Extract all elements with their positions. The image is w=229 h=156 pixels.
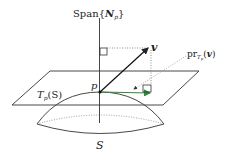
label-p: p xyxy=(91,80,98,91)
point-p xyxy=(98,90,101,93)
label-surface-s: S xyxy=(96,139,104,152)
projection-label-leader xyxy=(134,56,186,89)
label-span-np: Span{Np} xyxy=(73,8,124,21)
right-angle-marker-axis xyxy=(100,48,107,55)
projection-arrow xyxy=(100,92,150,93)
label-v: v xyxy=(151,41,158,54)
tangent-projection-diagram: Span{Np} v prTp(v) p Tp(S) S xyxy=(0,0,229,156)
right-angle-marker-projection xyxy=(143,85,151,92)
label-projection: prTp(v) xyxy=(187,49,216,61)
label-tangent-plane: Tp(S) xyxy=(37,89,62,102)
